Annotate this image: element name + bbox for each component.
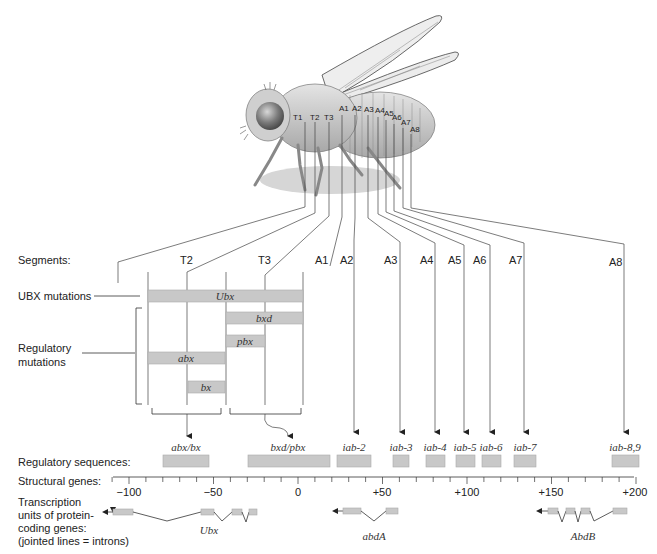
reg-seq-bxd-pbx: bxd/pbx (248, 441, 330, 467)
svg-text:T2: T2 (180, 254, 193, 266)
fly-eye (256, 102, 284, 130)
svg-text:A5: A5 (448, 254, 461, 266)
svg-text:T1: T1 (293, 113, 303, 122)
svg-text:bx: bx (201, 381, 212, 393)
svg-text:T3: T3 (324, 113, 334, 122)
svg-text:abx: abx (178, 352, 194, 364)
reg-seq-abx-bx: abx/bx (163, 441, 209, 467)
mutation-bars: Ubx bxd pbx abx bx (148, 290, 303, 393)
reg-seq-iab-6: iab-6 (479, 441, 503, 467)
svg-text:0: 0 (295, 486, 301, 498)
bxd-mutation-bar: bxd (226, 312, 303, 324)
transcription-label-2: units of protein- (18, 509, 94, 521)
fly-shadow (260, 166, 400, 194)
svg-text:pbx: pbx (236, 335, 253, 347)
fly-wings (322, 16, 459, 104)
reg-seq-iab-7: iab-7 (513, 441, 537, 467)
mutation-group-brackets (152, 408, 301, 436)
svg-text:A8: A8 (609, 256, 622, 268)
svg-text:iab-2: iab-2 (342, 441, 366, 453)
segments-row-label: Segments: (18, 254, 71, 266)
bx-mutation-bar: bx (188, 381, 225, 393)
pbx-mutation-bar: pbx (226, 335, 265, 347)
svg-text:bxd: bxd (256, 312, 272, 324)
regulatory-mutations-label-2: mutations (18, 356, 66, 368)
svg-text:A1: A1 (339, 104, 349, 113)
ubx-mutation-bar: Ubx (148, 290, 303, 302)
svg-text:iab-7: iab-7 (513, 441, 537, 453)
svg-text:A3: A3 (364, 105, 374, 114)
bithorax-complex-diagram: T1 T2 T3 A1 A2 A3 A4 A5 A6 A7 A8 (0, 0, 657, 554)
segment-column-labels: T2 T3 A1 A2 A3 A4 A5 A6 A7 A8 (180, 254, 622, 268)
svg-text:A6: A6 (473, 254, 486, 266)
abx-mutation-bar: abx (148, 352, 225, 364)
gene-abda-transcript: abdA (332, 508, 398, 542)
transcription-label-4: (jointed lines = introns) (18, 535, 129, 547)
svg-text:abx/bx: abx/bx (171, 441, 200, 453)
reg-seq-iab-2: iab-2 (337, 441, 371, 467)
reg-seq-iab-5: iab-5 (453, 441, 477, 467)
svg-text:Ubx: Ubx (200, 524, 218, 536)
svg-text:bxd/pbx: bxd/pbx (271, 441, 306, 453)
svg-text:−50: −50 (204, 486, 223, 498)
regulatory-mutations-label-1: Regulatory (18, 342, 72, 354)
reg-seq-iab-4: iab-4 (423, 441, 447, 467)
gene-abdb-transcript: AbdB (536, 508, 627, 542)
svg-text:A4: A4 (420, 254, 433, 266)
structural-genes-row-label: Structural genes: (18, 475, 101, 487)
svg-text:A2: A2 (352, 104, 362, 113)
regulatory-sequences: abx/bx bxd/pbx iab-2 iab-3 iab-4 iab-5 i… (163, 441, 641, 467)
transcription-label-1: Transcription (18, 496, 81, 508)
svg-text:A8: A8 (410, 125, 420, 134)
svg-text:Ubx: Ubx (216, 290, 234, 302)
svg-text:−100: −100 (117, 486, 142, 498)
ubx-mutations-row-label: UBX mutations (18, 290, 92, 302)
svg-text:+200: +200 (623, 486, 648, 498)
svg-text:abdA: abdA (362, 530, 386, 542)
svg-text:A2: A2 (340, 254, 353, 266)
regulatory-bracket (136, 308, 142, 404)
gene-ubx-transcript: Ubx (102, 509, 257, 536)
regulatory-sequences-row-label: Regulatory sequences: (18, 456, 131, 468)
svg-text:iab-6: iab-6 (479, 441, 503, 453)
svg-text:+150: +150 (539, 486, 564, 498)
transcription-label-3: coding genes: (18, 522, 87, 534)
svg-text:iab-4: iab-4 (423, 441, 447, 453)
svg-text:A1: A1 (315, 254, 328, 266)
reg-seq-iab-3: iab-3 (389, 441, 413, 467)
svg-text:iab-3: iab-3 (389, 441, 413, 453)
svg-text:A7: A7 (509, 254, 522, 266)
svg-text:+50: +50 (373, 486, 392, 498)
kb-axis: −100 −50 0 +50 +100 +150 +200 (112, 477, 647, 498)
fruit-fly-illustration: T1 T2 T3 A1 A2 A3 A4 A5 A6 A7 A8 (240, 16, 459, 195)
svg-text:iab-5: iab-5 (453, 441, 477, 453)
svg-text:AbdB: AbdB (570, 530, 596, 542)
svg-text:A3: A3 (384, 254, 397, 266)
svg-text:T2: T2 (310, 113, 320, 122)
svg-text:iab-8,9: iab-8,9 (609, 441, 641, 453)
svg-text:+100: +100 (455, 486, 480, 498)
reg-seq-iab-8-9: iab-8,9 (609, 441, 641, 467)
svg-text:T3: T3 (258, 254, 271, 266)
